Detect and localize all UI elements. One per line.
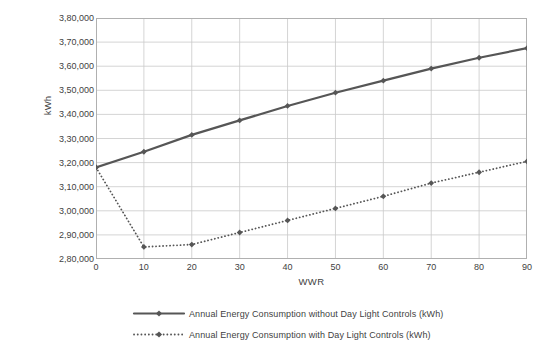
legend-solid-line-icon bbox=[132, 308, 186, 319]
legend-item[interactable]: Annual Energy Consumption with Day Light… bbox=[96, 324, 527, 345]
plot-area bbox=[96, 18, 527, 259]
x-tick-label: 10 bbox=[129, 262, 159, 272]
x-tick-label: 80 bbox=[464, 262, 494, 272]
x-tick-label: 30 bbox=[225, 262, 255, 272]
x-axis-title: WWR bbox=[96, 276, 527, 287]
line-chart: kWh 3,80,0003,70,0003,60,0003,50,0003,40… bbox=[0, 0, 557, 353]
x-tick-label: 60 bbox=[368, 262, 398, 272]
x-tick-label: 90 bbox=[512, 262, 542, 272]
legend-dotted-line-icon bbox=[132, 329, 186, 340]
chart-legend: Annual Energy Consumption without Day Li… bbox=[96, 303, 527, 345]
legend-label: Annual Energy Consumption with Day Light… bbox=[189, 330, 431, 340]
x-tick-label: 40 bbox=[273, 262, 303, 272]
legend-item[interactable]: Annual Energy Consumption without Day Li… bbox=[96, 303, 527, 324]
x-tick-label: 0 bbox=[81, 262, 111, 272]
x-tick-label: 20 bbox=[177, 262, 207, 272]
x-tick-label: 70 bbox=[416, 262, 446, 272]
legend-label: Annual Energy Consumption without Day Li… bbox=[189, 309, 443, 319]
x-tick-label: 50 bbox=[320, 262, 350, 272]
